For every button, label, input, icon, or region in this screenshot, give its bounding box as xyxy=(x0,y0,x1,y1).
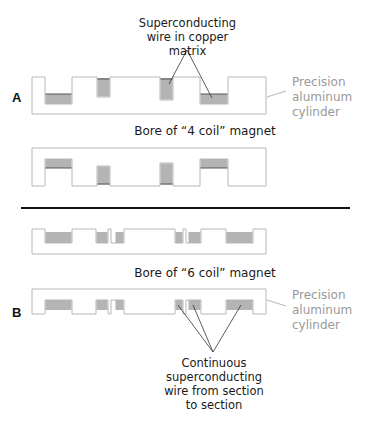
panel-a-side-leader xyxy=(267,91,286,97)
callout-line: wire in copper matrix xyxy=(130,30,245,58)
panel-b-bore-caption: Bore of “6 coil” magnet xyxy=(130,266,280,280)
callout-line: to section xyxy=(155,398,273,412)
side-label-line: aluminum xyxy=(292,303,352,318)
callout-line: superconducting xyxy=(155,370,273,384)
side-label-line: cylinder xyxy=(292,105,352,120)
side-label-line: cylinder xyxy=(292,318,352,333)
panel-b-label: B xyxy=(12,305,21,320)
panel-b-side-label: Precision aluminum cylinder xyxy=(292,288,352,333)
panel-a-bore-caption: Bore of “4 coil” magnet xyxy=(130,124,280,138)
callout-line: Superconducting xyxy=(130,16,245,30)
panel-a-wire-callout: Superconducting wire in copper matrix xyxy=(130,16,245,58)
side-label-line: Precision xyxy=(292,288,352,303)
panel-b-side-leader xyxy=(267,300,286,306)
callout-line: wire from section xyxy=(155,384,273,398)
panel-a-side-label: Precision aluminum cylinder xyxy=(292,75,352,120)
panel-a-upper-cylinder xyxy=(32,77,266,114)
panel-a-lower-cylinder xyxy=(32,148,266,186)
panel-b-wire-callout: Continuous superconducting wire from sec… xyxy=(155,356,273,412)
panel-b-upper-cylinder xyxy=(32,229,266,254)
panel-b-lower-cylinder xyxy=(32,289,266,314)
panel-a-label: A xyxy=(12,90,21,105)
callout-line: Continuous xyxy=(155,356,273,370)
side-label-line: aluminum xyxy=(292,90,352,105)
side-label-line: Precision xyxy=(292,75,352,90)
